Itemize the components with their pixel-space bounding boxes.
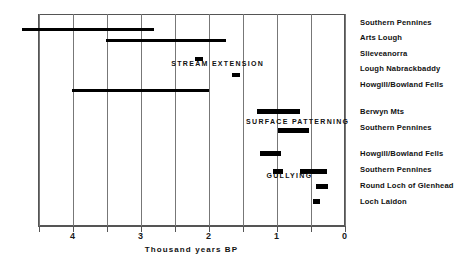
chart-figure: STREAM EXTENSIONSURFACE PATTERNINGGULLYI…: [0, 0, 472, 263]
gridline: [209, 14, 210, 226]
bar-howgill-bowland-fells: [72, 89, 209, 92]
site-label: Howgill/Bowland Fells: [360, 80, 443, 89]
group-annotation: GULLYING: [267, 172, 313, 179]
gridline: [39, 14, 40, 226]
x-axis-tick-label: 2: [194, 231, 224, 241]
gridline: [107, 14, 108, 226]
x-axis-tick: [107, 226, 108, 232]
x-axis-tick: [175, 226, 176, 232]
x-axis-tick-label: 1: [262, 231, 292, 241]
bar-lough-nabrackbaddy: [232, 73, 240, 77]
x-axis-tick-label: 0: [330, 231, 360, 241]
bar-howgill-bowland-fells: [260, 151, 282, 156]
x-axis-tick: [311, 226, 312, 232]
site-label: Southern Pennines: [360, 18, 432, 27]
gridline: [175, 14, 176, 226]
bar-arts-lough: [106, 39, 226, 42]
x-axis-tick: [243, 226, 244, 232]
bar-southern-pennines: [278, 128, 309, 133]
x-axis-tick-label: 4: [58, 231, 88, 241]
site-label: Howgill/Bowland Fells: [360, 149, 443, 158]
gridline: [243, 14, 244, 226]
bar-round-loch-of-glenhead: [316, 184, 328, 189]
x-axis-title: Thousand years BP: [38, 245, 344, 254]
site-label: Slieveanorra: [360, 49, 407, 58]
x-axis-tick: [39, 226, 40, 232]
gridline: [141, 14, 142, 226]
site-label: Loch Laidon: [360, 197, 407, 206]
bar-loch-laidon: [313, 199, 320, 204]
x-axis-tick-label: 3: [126, 231, 156, 241]
bar-southern-pennines: [22, 28, 154, 31]
site-label: Berwyn Mts: [360, 107, 404, 116]
site-label: Lough Nabrackbaddy: [360, 64, 440, 73]
site-label: Southern Pennines: [360, 123, 432, 132]
group-annotation: SURFACE PATTERNING: [246, 118, 349, 125]
site-label: Arts Lough: [360, 33, 402, 42]
bar-berwyn-mts: [257, 109, 301, 114]
group-annotation: STREAM EXTENSION: [171, 60, 264, 67]
gridline: [73, 14, 74, 226]
site-label: Round Loch of Glenhead: [360, 181, 454, 190]
x-axis-baseline: [38, 226, 344, 227]
site-label: Southern Pennines: [360, 165, 432, 174]
